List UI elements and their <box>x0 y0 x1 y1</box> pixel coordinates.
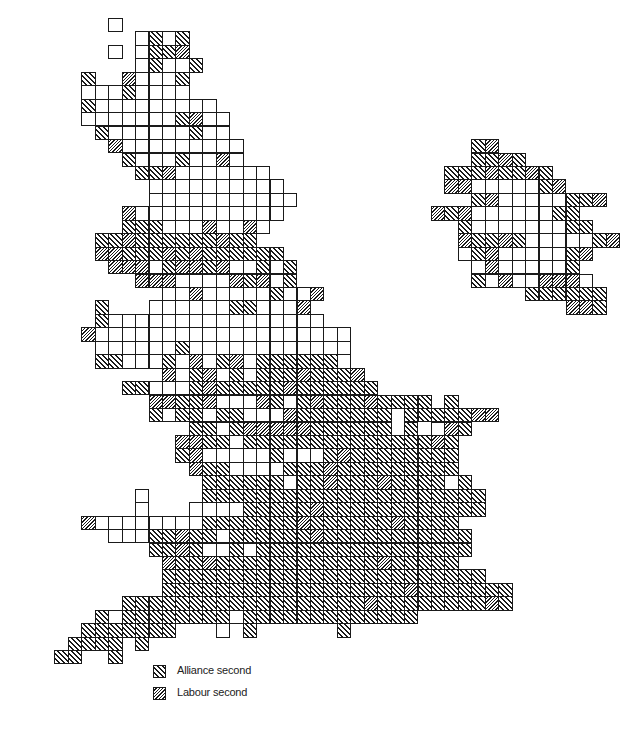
constituency-cell-alliance <box>310 583 324 597</box>
constituency-cell <box>135 139 149 153</box>
constituency-cell <box>135 489 149 503</box>
constituency-cell-alliance <box>189 233 203 247</box>
constituency-cell-labour <box>444 422 458 436</box>
constituency-cell-alliance <box>391 502 405 516</box>
constituency-cell <box>579 274 593 288</box>
constituency-cell <box>216 300 230 314</box>
constituency-cell-alliance <box>122 381 136 395</box>
constituency-cell <box>149 341 163 355</box>
constituency-cell <box>175 220 189 234</box>
constituency-cell-alliance <box>149 623 163 637</box>
constituency-cell-alliance <box>243 300 257 314</box>
constituency-cell <box>552 193 566 207</box>
constituency-cell-alliance <box>350 435 364 449</box>
constituency-cell-alliance <box>444 556 458 570</box>
constituency-cell-alliance <box>243 502 257 516</box>
constituency-cell-alliance <box>444 596 458 610</box>
constituency-cell-alliance <box>323 583 337 597</box>
constituency-cell-labour <box>162 395 176 409</box>
constituency-cell <box>135 153 149 167</box>
constituency-cell-alliance <box>256 529 270 543</box>
constituency-cell-alliance <box>391 395 405 409</box>
constituency-cell <box>202 274 216 288</box>
constituency-cell-alliance <box>431 408 445 422</box>
constituency-cell-alliance <box>256 569 270 583</box>
constituency-cell-labour <box>216 153 230 167</box>
constituency-cell <box>216 314 230 328</box>
constituency-cell <box>229 610 243 624</box>
constituency-cell-alliance <box>323 354 337 368</box>
constituency-cell <box>189 193 203 207</box>
constituency-cell-labour <box>310 287 324 301</box>
constituency-cell <box>310 327 324 341</box>
constituency-cell <box>216 529 230 543</box>
constituency-cell-labour <box>485 596 499 610</box>
constituency-cell <box>175 516 189 530</box>
constituency-cell-labour <box>323 462 337 476</box>
constituency-cell <box>122 112 136 126</box>
constituency-cell-alliance <box>391 596 405 610</box>
constituency-cell-alliance <box>283 368 297 382</box>
constituency-cell-alliance <box>256 368 270 382</box>
constituency-cell <box>485 206 499 220</box>
constituency-cell-alliance <box>149 543 163 557</box>
constituency-cell-alliance <box>350 610 364 624</box>
constituency-cell <box>108 45 122 59</box>
constituency-cell <box>108 341 122 355</box>
constituency-cell-alliance <box>229 516 243 530</box>
constituency-cell-alliance <box>297 610 311 624</box>
constituency-cell-alliance <box>189 569 203 583</box>
constituency-cell-labour <box>297 422 311 436</box>
constituency-cell-alliance <box>458 475 472 489</box>
constituency-cell-labour <box>579 300 593 314</box>
constituency-cell <box>202 448 216 462</box>
constituency-cell-alliance <box>283 610 297 624</box>
constituency-cell-alliance <box>525 287 539 301</box>
constituency-cell-labour <box>458 179 472 193</box>
constituency-cell-alliance <box>404 435 418 449</box>
constituency-cell <box>431 422 445 436</box>
constituency-cell-alliance <box>175 233 189 247</box>
constituency-cell-labour <box>243 220 257 234</box>
constituency-cell-alliance <box>350 529 364 543</box>
constituency-cell-labour <box>498 153 512 167</box>
constituency-cell <box>162 139 176 153</box>
constituency-cell-labour <box>229 274 243 288</box>
constituency-cell <box>458 247 472 261</box>
constituency-cell <box>539 247 553 261</box>
constituency-cell <box>270 327 284 341</box>
constituency-cell <box>162 193 176 207</box>
constituency-cell <box>310 341 324 355</box>
constituency-cell-alliance <box>431 583 445 597</box>
constituency-cell-labour <box>108 260 122 274</box>
constituency-cell <box>283 314 297 328</box>
constituency-cell-alliance <box>256 489 270 503</box>
constituency-cell <box>525 274 539 288</box>
constituency-cell <box>202 112 216 126</box>
constituency-cell-alliance <box>350 448 364 462</box>
constituency-cell-alliance <box>229 569 243 583</box>
constituency-cell-alliance <box>377 529 391 543</box>
constituency-cell <box>337 341 351 355</box>
constituency-cell-alliance <box>337 596 351 610</box>
constituency-cell <box>229 179 243 193</box>
constituency-cell-alliance <box>323 408 337 422</box>
constituency-cell-labour <box>458 206 472 220</box>
constituency-cell <box>162 327 176 341</box>
constituency-cell-alliance <box>364 529 378 543</box>
constituency-cell-alliance <box>135 637 149 651</box>
constituency-cell-alliance <box>243 623 257 637</box>
constituency-cell-alliance <box>323 516 337 530</box>
constituency-cell-alliance <box>391 529 405 543</box>
constituency-cell <box>256 314 270 328</box>
constituency-cell-alliance <box>95 233 109 247</box>
constituency-cell-alliance <box>283 543 297 557</box>
constituency-cell-alliance <box>350 381 364 395</box>
constituency-cell-alliance <box>81 72 95 86</box>
constituency-cell <box>229 139 243 153</box>
constituency-cell <box>229 435 243 449</box>
constituency-cell <box>229 287 243 301</box>
constituency-cell-alliance <box>216 610 230 624</box>
constituency-cell <box>256 462 270 476</box>
constituency-cell-alliance <box>310 422 324 436</box>
